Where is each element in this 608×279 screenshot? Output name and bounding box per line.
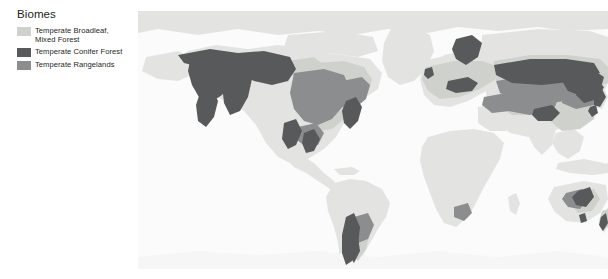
legend-item-label: Temperate Rangelands [35, 60, 115, 69]
legend-item: Temperate Conifer Forest [17, 47, 135, 57]
legend-title: Biomes [17, 8, 135, 21]
legend-item: Temperate Rangelands [17, 60, 135, 70]
world-map [138, 11, 608, 269]
legend: Biomes Temperate Broadleaf, Mixed Forest… [17, 8, 135, 73]
swatch-temperate-conifer-forest [17, 48, 31, 57]
world-map-svg [138, 11, 608, 269]
legend-item: Temperate Broadleaf, Mixed Forest [17, 26, 135, 44]
swatch-temperate-broadleaf-mixed-forest [17, 27, 31, 36]
swatch-temperate-rangelands [17, 61, 31, 70]
legend-item-label: Temperate Conifer Forest [35, 47, 122, 56]
biome-map-figure: Biomes Temperate Broadleaf, Mixed Forest… [0, 0, 608, 279]
legend-item-label: Temperate Broadleaf, Mixed Forest [35, 26, 109, 44]
